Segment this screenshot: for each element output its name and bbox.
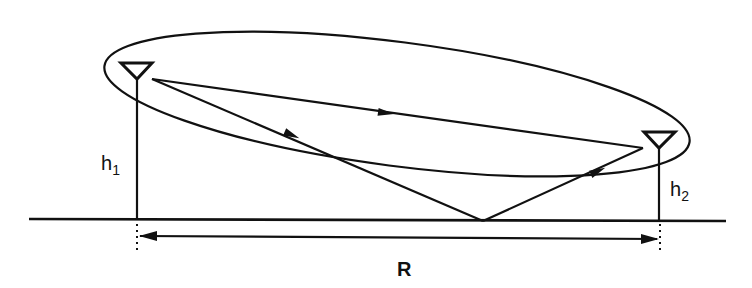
reflected-ray bbox=[152, 79, 643, 221]
receive-antenna bbox=[644, 132, 675, 222]
range-dimension-arrow bbox=[139, 231, 659, 244]
transmit-antenna bbox=[121, 63, 152, 220]
fresnel-ellipse bbox=[96, 5, 697, 204]
two-ray-diagram: h1 h2 R bbox=[0, 0, 752, 288]
ground-line bbox=[29, 219, 726, 221]
range-label: R bbox=[397, 258, 412, 280]
h2-label: h2 bbox=[670, 178, 689, 204]
h1-label: h1 bbox=[101, 152, 120, 178]
direct-ray bbox=[152, 79, 643, 148]
